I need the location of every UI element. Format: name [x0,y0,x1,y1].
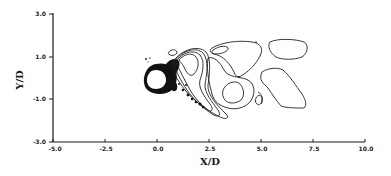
y-tick-label: -1.0 [33,95,46,102]
contour-lower-vortex-1 [223,82,244,103]
x-tick-label: 7.5 [309,145,320,152]
x-tick-label: 10.0 [359,145,374,152]
speck [255,41,257,43]
speck [182,89,185,92]
contour-upper-vortex-1 [210,41,261,77]
x-tick-label: 5.0 [257,145,268,152]
speck [147,61,148,62]
contour-upper-vortex-2 [269,39,307,59]
contour-lower-vortex-2 [261,68,306,108]
x-tick-label: -2.5 [99,145,112,152]
speck [185,84,187,86]
x-tick-label: 2.5 [205,145,216,152]
y-axis-title: Y/D [14,70,25,91]
speck [199,103,202,106]
speck [145,58,147,60]
contour [179,54,198,75]
contour-upper-vortex-1-inner [212,46,228,54]
speck [195,101,198,104]
contour-small-upper [168,50,177,56]
x-tick-label: 0.0 [153,145,164,152]
y-tick-label: -3.0 [33,138,46,145]
x-tick-label: -5.0 [48,145,61,152]
y-tick-label: 3.0 [35,10,46,17]
speck [149,57,150,58]
axes: 3.0 1.0 -1.0 -3.0 -5.0 -2.5 0.0 2.5 5.0 … [14,10,373,167]
speck [187,94,190,97]
shear-layer-contours [172,48,228,118]
contour-plot: 3.0 1.0 -1.0 -3.0 -5.0 -2.5 0.0 2.5 5.0 … [0,0,391,176]
speck [178,83,180,85]
speck [238,76,240,78]
x-axis-title: X/D [200,156,220,167]
y-tick-label: 1.0 [35,53,46,60]
speck [191,98,193,100]
contour [174,50,220,116]
speck [202,106,205,109]
